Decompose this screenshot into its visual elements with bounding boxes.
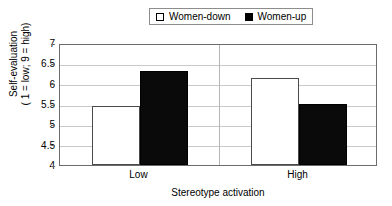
y-tick-label: 7 (9, 39, 55, 49)
legend-swatch-women-down-icon (156, 13, 164, 21)
y-tick-label: 6.5 (9, 59, 55, 69)
plot-area (59, 44, 377, 166)
x-tick-label-low: Low (99, 170, 179, 180)
legend-item-women-down: Women-down (156, 12, 231, 22)
y-tick-mark (51, 44, 55, 45)
bar-women-down-high (251, 78, 299, 165)
legend-swatch-women-up-icon (245, 13, 253, 21)
y-tick-mark (51, 105, 55, 106)
y-tick-label: 4 (9, 161, 55, 171)
y-tick-mark (51, 64, 55, 65)
x-axis-title: Stereotype activation (59, 188, 377, 198)
chart-legend: Women-down Women-up (149, 8, 313, 25)
y-tick-mark (51, 125, 55, 126)
y-tick-label: 6 (9, 80, 55, 90)
legend-label-women-down: Women-down (169, 12, 231, 22)
y-tick-label: 4.5 (9, 141, 55, 151)
bar-women-up-low (140, 71, 188, 165)
group-separator (219, 45, 220, 165)
y-tick-mark (51, 145, 55, 146)
y-tick-mark (51, 84, 55, 85)
chart-figure: Women-down Women-up Self-evaluation ( 1 … (0, 0, 392, 206)
bar-women-down-low (92, 106, 140, 165)
legend-label-women-up: Women-up (258, 12, 307, 22)
gridline (60, 65, 376, 66)
legend-item-women-up: Women-up (245, 12, 307, 22)
x-tick-label-high: High (258, 170, 338, 180)
y-tick-label: 5 (9, 120, 55, 130)
y-tick-mark (51, 166, 55, 167)
y-axis: 44.555.566.57 (0, 44, 55, 166)
y-tick-label: 5.5 (9, 100, 55, 110)
gridline (60, 85, 376, 86)
bar-women-up-high (299, 104, 347, 165)
